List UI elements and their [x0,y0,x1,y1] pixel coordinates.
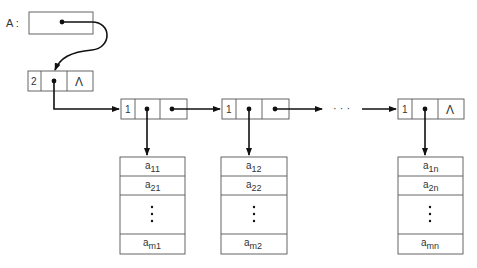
column-vector-1: a11 a21 am1 [120,157,185,254]
column-vector-2: a12 a22 am2 [221,157,287,254]
linked-matrix-diagram: A : 2 Λ 1 1 · · · 1 [0,0,477,268]
null-symbol: Λ [75,75,83,89]
head-node: 2 Λ [28,71,93,91]
node-tag: 1 [402,104,408,115]
null-symbol: Λ [446,103,454,117]
node-tag: 1 [226,104,232,115]
node-tag: 1 [125,104,131,115]
head-count: 2 [31,76,37,87]
ellipsis: · · · [333,102,350,114]
column-node-n: 1 Λ [398,99,464,119]
column-vector-n: a1n a2n amn [398,157,463,254]
pointer-label: A : [6,17,19,29]
